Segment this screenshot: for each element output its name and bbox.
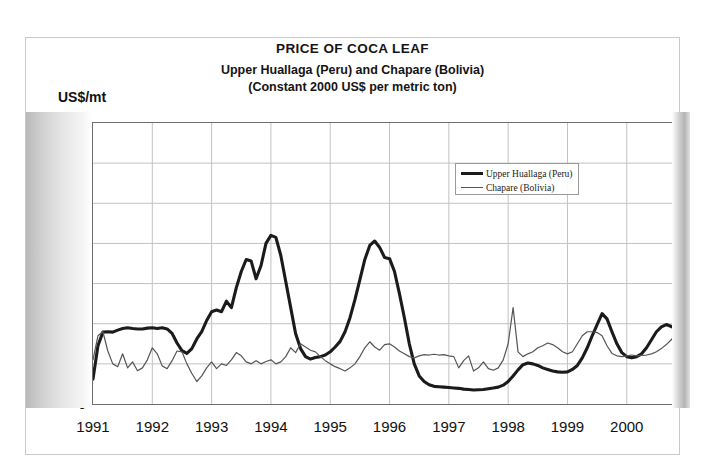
y-tick-label: 3,000 xyxy=(24,276,86,292)
legend-label-upper-huallaga: Upper Huallaga (Peru) xyxy=(486,169,573,179)
y-tick-label: 1,000 xyxy=(24,356,86,372)
series-line-upper-huallaga xyxy=(93,235,676,390)
x-tick-label: 1993 xyxy=(195,418,228,435)
chart-figure: PRICE OF COCA LEAF Upper Huallaga (Peru)… xyxy=(0,0,718,476)
title-block: PRICE OF COCA LEAF Upper Huallaga (Peru)… xyxy=(25,40,680,96)
x-tick-label: 2000 xyxy=(610,418,643,435)
page-title: PRICE OF COCA LEAF xyxy=(25,40,680,58)
chart-legend: Upper Huallaga (Peru) Chapare (Bolivia) xyxy=(455,163,579,195)
y-tick-label: 7,000 xyxy=(24,115,86,131)
x-tick-label: 1997 xyxy=(432,418,465,435)
legend-item-chapare: Chapare (Bolivia) xyxy=(461,181,573,194)
legend-swatch-upper-huallaga xyxy=(461,172,483,175)
y-tick-label: 4,000 xyxy=(24,235,86,251)
chart-subtitle-regions: Upper Huallaga (Peru) and Chapare (Boliv… xyxy=(25,62,680,79)
y-tick-label: 5,000 xyxy=(24,195,86,211)
legend-swatch-chapare xyxy=(461,187,483,188)
x-tick-label: 1999 xyxy=(551,418,584,435)
x-tick-label: 1992 xyxy=(136,418,169,435)
legend-item-upper-huallaga: Upper Huallaga (Peru) xyxy=(461,167,573,180)
y-tick-label: 0 xyxy=(24,396,86,412)
y-axis-tick-labels: 7,0006,0005,0004,0003,0002,0001,0000 xyxy=(20,122,86,405)
x-tick-label: 1998 xyxy=(491,418,524,435)
x-tick-label: 1996 xyxy=(373,418,406,435)
x-tick-label: 1994 xyxy=(254,418,287,435)
legend-label-chapare: Chapare (Bolivia) xyxy=(486,183,554,193)
chart-subtitle-units: (Constant 2000 US$ per metric ton) xyxy=(25,79,680,96)
y-tick-label: 2,000 xyxy=(24,316,86,332)
y-axis-title: US$/mt xyxy=(58,89,106,105)
x-axis-tick-labels: 1991199219931994199519961997199819992000 xyxy=(92,418,677,440)
x-tick-label: 1991 xyxy=(76,418,109,435)
plot-area xyxy=(92,122,677,405)
series-plot xyxy=(93,123,676,404)
x-tick-label: 1995 xyxy=(314,418,347,435)
y-tick-label: 6,000 xyxy=(24,155,86,171)
